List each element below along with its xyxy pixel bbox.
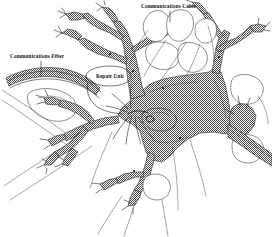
white-lobe-lower [143, 174, 170, 200]
white-lobe-3 [146, 42, 180, 70]
lower-fiber-3 [162, 200, 168, 236]
white-lobe-5 [195, 19, 217, 44]
terminal-tuft-low-2 [100, 178, 118, 190]
terminal-whisker-ul-2 [58, 8, 66, 18]
upper-branch-left-1 [78, 38, 127, 64]
lower-fiber-1 [98, 196, 122, 234]
node-dot-6 [133, 170, 135, 172]
node-dot-1 [132, 70, 134, 72]
figure-root: Communications Cable Communications Fibe… [0, 0, 272, 237]
terminal-tuft-uc [102, 7, 118, 22]
white-lobe-2 [167, 10, 194, 42]
terminal-tuft-ul-2 [66, 12, 85, 20]
terminal-whisker-l-2 [37, 159, 48, 174]
terminal-tuft-ul-1 [62, 29, 82, 40]
white-lobe-4 [178, 42, 208, 72]
communications-cable-label: Communications Cable [141, 3, 197, 9]
terminal-tuft-l-3 [48, 134, 66, 146]
node-dot-2 [162, 87, 164, 89]
terminal-tuft-l-2 [44, 152, 59, 165]
node-dot-5 [109, 53, 111, 55]
white-lobe-1 [143, 11, 169, 42]
node-dot-4 [218, 56, 220, 58]
fiber-strand-4 [10, 146, 92, 200]
terminal-whisker-ul-1 [54, 26, 62, 37]
lower-fiber-5 [190, 140, 206, 196]
terminal-tuft-low-1 [128, 190, 141, 206]
right-lobe-fiber [258, 96, 268, 124]
node-dot-3 [179, 137, 181, 139]
communications-fiber-label: Communications Fiber [10, 53, 65, 59]
lower-fiber-4 [172, 146, 178, 210]
white-lobe-right-1 [231, 74, 264, 104]
repair-unit-label: Repair Unit [96, 73, 124, 79]
neuron-machine-illustration: Communications Cable Communications Fibe… [0, 0, 272, 237]
